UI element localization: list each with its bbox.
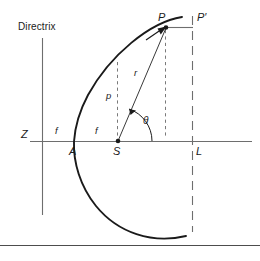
parabola-curve [74, 17, 186, 239]
label-a-vertex: A [69, 146, 76, 157]
label-r-focal-radius: r [134, 68, 137, 78]
theta-angle-arc [129, 109, 152, 141]
label-f-right: f [95, 126, 98, 136]
focal-radius-r [118, 28, 166, 141]
label-directrix: Directrix [18, 22, 56, 32]
label-l: L [196, 146, 202, 157]
label-z: Z [21, 129, 28, 140]
label-p-point: P [158, 12, 165, 23]
parabola-diagram: Directrix Z A S L P P′ r p θ f f [0, 0, 260, 261]
diagram-canvas [0, 0, 260, 261]
label-p-semi-latus: p [106, 91, 111, 101]
focus-point-dot [116, 139, 121, 144]
label-f-left: f [55, 126, 58, 136]
label-s-focus: S [113, 146, 120, 157]
label-p-prime: P′ [197, 12, 206, 23]
label-theta-angle: θ [143, 116, 148, 126]
